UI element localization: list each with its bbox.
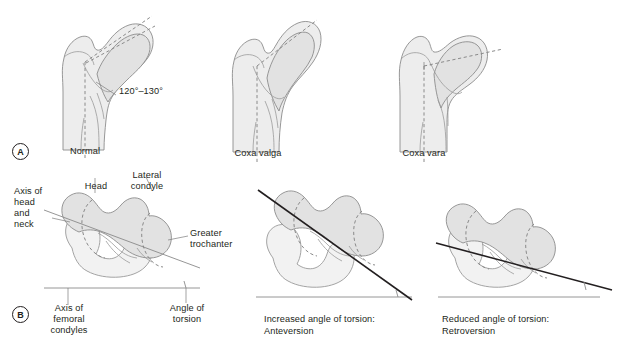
label-neck-shaft-angle: 120°–130° bbox=[119, 86, 163, 97]
label-lateral-condyle: Lateral condyle bbox=[122, 170, 172, 192]
caption-retroversion-line2: Retroversion bbox=[442, 326, 495, 337]
axial-femur-retroversion-graphic bbox=[436, 204, 612, 297]
label-coxa-valga: Coxa valga bbox=[222, 148, 294, 159]
axial-femur-normal-graphic bbox=[44, 177, 200, 305]
femur-coxa-valga-graphic bbox=[232, 20, 321, 162]
anatomy-figure: .bone{fill:#ededed;stroke:#8c8c8c;stroke… bbox=[0, 0, 638, 343]
panel-marker-b: B bbox=[12, 306, 29, 323]
axial-femur-anteversion-graphic bbox=[256, 190, 412, 300]
label-head: Head bbox=[74, 181, 118, 192]
label-normal: Normal bbox=[50, 146, 120, 157]
caption-anteversion-line1: Increased angle of torsion: bbox=[264, 314, 375, 325]
panel-marker-a: A bbox=[12, 143, 29, 160]
figure-canvas: .bone{fill:#ededed;stroke:#8c8c8c;stroke… bbox=[0, 0, 638, 343]
label-axis-femoral-condyles: Axis of femoral condyles bbox=[40, 303, 98, 336]
label-axis-head-neck: Axis of head and neck bbox=[14, 186, 60, 230]
label-greater-trochanter: Greater trochanter bbox=[190, 228, 252, 250]
label-angle-of-torsion: Angle of torsion bbox=[160, 303, 214, 325]
femur-coxa-vara-graphic bbox=[399, 36, 503, 162]
label-coxa-vara: Coxa vara bbox=[388, 148, 460, 159]
caption-anteversion-line2: Anteversion bbox=[264, 326, 314, 337]
caption-retroversion-line1: Reduced angle of torsion: bbox=[442, 314, 549, 325]
